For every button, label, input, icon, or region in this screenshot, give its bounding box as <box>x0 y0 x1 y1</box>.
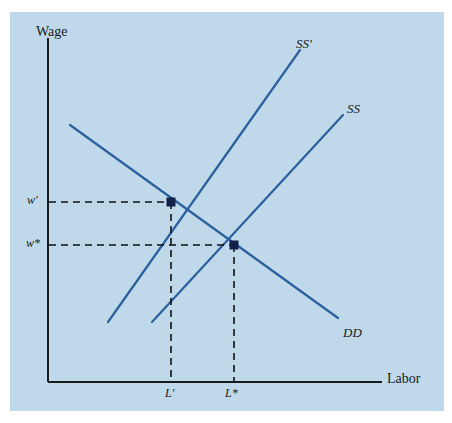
tick-label-labor-new: L' <box>165 386 174 401</box>
supply-curve-ss-shifted <box>108 50 300 322</box>
equilibrium-point-new <box>167 198 176 207</box>
figure-root: Wage Labor SS' SS DD w' w* L' L* <box>0 0 452 423</box>
tick-label-wage-star: w* <box>26 236 40 251</box>
axis-lines <box>48 38 382 382</box>
curve-label-ss-shifted: SS' <box>296 36 312 52</box>
tick-label-labor-star: L* <box>225 386 238 401</box>
equilibrium-point-original <box>230 241 239 250</box>
demand-curve-dd <box>70 125 338 318</box>
x-axis-title: Labor <box>387 371 420 387</box>
tick-label-wage-new: w' <box>27 193 38 208</box>
plot-graphics <box>0 0 452 423</box>
curve-label-ss: SS <box>347 101 360 117</box>
curve-label-dd: DD <box>343 325 362 341</box>
y-axis-title: Wage <box>36 24 68 40</box>
guide-lines-original-equilibrium <box>49 245 234 381</box>
guide-lines-new-equilibrium <box>49 202 171 381</box>
